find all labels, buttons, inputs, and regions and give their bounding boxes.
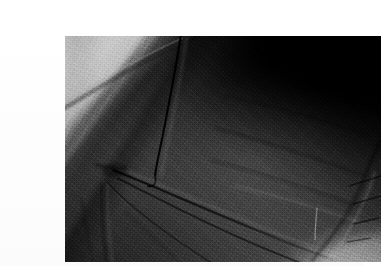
crease-convergence-point [102,163,128,177]
cuff-pleat-4 [347,238,371,242]
crease-shoulder-fold-highlight [65,38,183,104]
crease-diagonal-secondary [117,178,303,262]
crease-vertical-highlight [161,36,187,178]
crease-diagonal-tertiary [107,182,213,262]
crease-lower-left-a [125,212,177,260]
crease-lower-left-b [81,196,93,262]
crease-lines-group [65,36,381,262]
crease-vertical-top-centre [155,36,181,176]
crease-diagonal-primary [113,170,333,260]
photograph [65,36,381,262]
cuff-thread-highlight [315,208,317,240]
fold-body-upper2 [225,96,371,136]
crease-diagonal-primary-highlight [115,166,335,256]
crease-left-panel-highlight [107,184,113,262]
